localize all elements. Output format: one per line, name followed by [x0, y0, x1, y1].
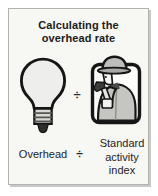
diagram-title-line2: overhead rate	[9, 32, 148, 45]
diagram-card: Calculating the overhead rate ÷ Overhead…	[8, 8, 149, 185]
divide-sign-icons: ÷	[70, 88, 84, 102]
diagram-title-line1: Calculating the	[9, 19, 148, 32]
divide-sign-labels: ÷	[73, 147, 86, 161]
lightbulb-icon	[19, 56, 67, 138]
standard-activity-index-label: Standard activity index	[96, 137, 148, 178]
diagram-title: Calculating the overhead rate	[9, 19, 148, 45]
overhead-label: Overhead	[14, 148, 72, 160]
worker-icon	[89, 54, 143, 127]
